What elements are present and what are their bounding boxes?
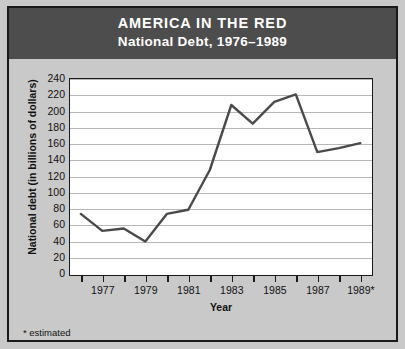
x-tick xyxy=(189,276,190,282)
plot-box xyxy=(69,78,373,276)
x-tick xyxy=(296,276,297,282)
y-tick-label: 200 xyxy=(47,106,65,116)
y-tick-label: 100 xyxy=(47,187,65,197)
x-tick xyxy=(210,276,211,282)
y-tick-label: 40 xyxy=(53,236,65,246)
y-tick-label: 0 xyxy=(59,268,65,278)
x-tick xyxy=(275,276,276,282)
x-tick-label: 1987 xyxy=(306,284,329,296)
x-tick xyxy=(318,276,319,282)
x-tick xyxy=(339,276,340,282)
debt-line-series xyxy=(70,79,371,274)
figure-frame: AMERICA IN THE RED National Debt, 1976–1… xyxy=(0,0,405,349)
x-tick xyxy=(146,276,147,282)
footnote: * estimated xyxy=(23,327,71,338)
x-tick-label: 1977 xyxy=(91,284,114,296)
x-tick-label: 1979 xyxy=(134,284,157,296)
y-tick-label: 20 xyxy=(53,252,65,262)
x-axis-tick-labels: 1977197919811983198519871989* xyxy=(9,284,396,300)
y-axis-tick-labels: 020406080100120140160180200220240 xyxy=(37,73,65,281)
x-axis-title: Year xyxy=(69,301,373,313)
x-tick xyxy=(124,276,125,282)
x-tick xyxy=(232,276,233,282)
chart-area: National debt (in billions of dollars) 0… xyxy=(9,59,396,342)
x-tick-label: 1989* xyxy=(347,284,374,296)
x-tick-label: 1981 xyxy=(177,284,200,296)
x-axis-ticks xyxy=(69,276,373,284)
chart-subtitle: National Debt, 1976–1989 xyxy=(9,33,396,51)
x-tick-label: 1983 xyxy=(220,284,243,296)
y-tick-label: 120 xyxy=(47,171,65,181)
y-tick-label: 140 xyxy=(47,154,65,164)
y-tick-label: 160 xyxy=(47,138,65,148)
figure-card: AMERICA IN THE RED National Debt, 1976–1… xyxy=(7,6,398,342)
y-tick-label: 240 xyxy=(47,73,65,83)
y-tick-label: 60 xyxy=(53,219,65,229)
y-tick-label: 80 xyxy=(53,203,65,213)
chart-header: AMERICA IN THE RED National Debt, 1976–1… xyxy=(9,8,396,59)
x-tick-label: 1985 xyxy=(263,284,286,296)
x-tick xyxy=(167,276,168,282)
y-tick-label: 180 xyxy=(47,122,65,132)
x-tick xyxy=(81,276,82,282)
x-tick xyxy=(103,276,104,282)
x-tick xyxy=(361,276,362,282)
chart-title: AMERICA IN THE RED xyxy=(9,14,396,33)
y-tick-label: 220 xyxy=(47,89,65,99)
x-tick xyxy=(253,276,254,282)
